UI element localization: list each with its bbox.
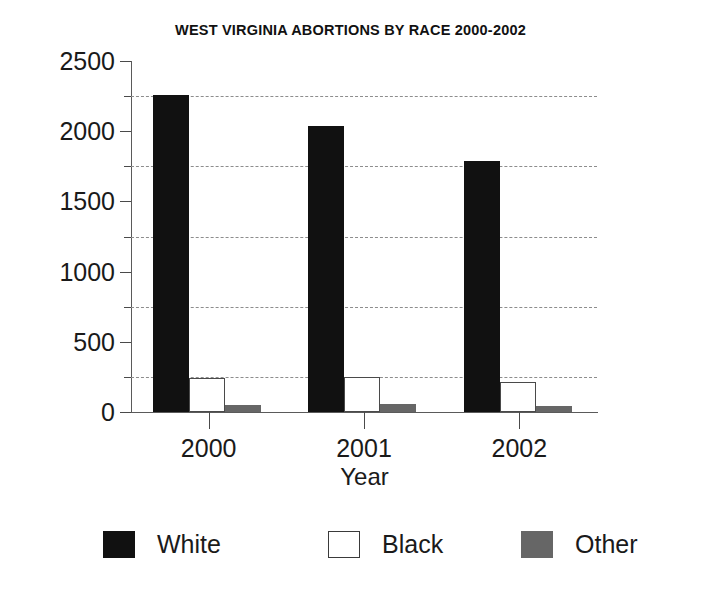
y-axis-tick [120,131,131,132]
y-axis-tick [120,201,131,202]
x-axis-tick [519,412,520,429]
bar-chart: WEST VIRGINIA ABORTIONS BY RACE 2000-200… [0,0,701,607]
x-axis-label-2002: 2002 [492,436,548,461]
y-axis-tick [120,272,131,273]
chart-title: WEST VIRGINIA ABORTIONS BY RACE 2000-200… [0,22,701,38]
y-axis-tick [120,61,131,62]
bar-2001-other [380,404,416,412]
bar-2002-white [464,161,500,412]
y-axis-tick [120,412,131,413]
y-axis-minor-tick [124,237,131,238]
legend-label-black: Black [382,532,443,557]
bar-2001-white [308,126,344,412]
legend-swatch-other [521,531,553,558]
bar-2000-white [153,95,189,412]
x-axis-tick [209,412,210,429]
legend-swatch-black [328,531,360,558]
gridline [131,307,597,308]
gridline [131,96,597,97]
gridline [131,237,597,238]
bar-2002-black [500,382,536,412]
chart-legend: WhiteBlackOther [0,531,701,573]
y-axis-tick [120,342,131,343]
x-axis-tick [364,412,365,429]
legend-entry-other[interactable]: Other [521,531,638,558]
legend-swatch-white [103,531,135,558]
x-axis-title: Year [131,463,598,491]
y-axis-label: 1000 [59,259,115,284]
bar-2000-black [189,378,225,412]
legend-label-white: White [157,532,221,557]
bar-2001-black [344,377,380,412]
y-axis-minor-tick [124,166,131,167]
y-axis-label: 2000 [59,119,115,144]
x-axis-label-2001: 2001 [336,436,392,461]
legend-label-other: Other [575,532,638,557]
y-axis-minor-tick [124,307,131,308]
legend-entry-white[interactable]: White [103,531,221,558]
y-axis-label: 1500 [59,189,115,214]
y-axis-label: 2500 [59,49,115,74]
gridline [131,166,597,167]
y-axis-minor-tick [124,377,131,378]
y-axis-label: 500 [73,329,115,354]
x-axis-label-2000: 2000 [181,436,237,461]
y-axis-label: 0 [101,400,115,425]
y-axis-minor-tick [124,96,131,97]
bar-2002-other [536,406,572,412]
plot-area: 05001000150020002500 200020012002 [131,61,597,412]
legend-entry-black[interactable]: Black [328,531,443,558]
bar-2000-other [225,405,261,412]
